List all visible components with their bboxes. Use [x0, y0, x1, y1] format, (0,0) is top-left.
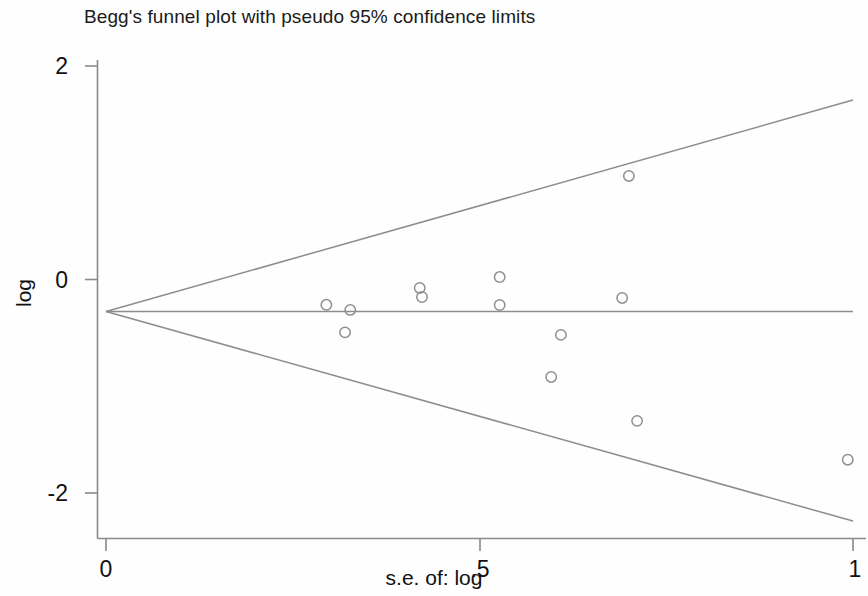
study-point — [546, 372, 556, 382]
study-point — [624, 171, 634, 181]
study-points-group — [321, 171, 853, 465]
funnel-plot-figure: Begg's funnel plot with pseudo 95% confi… — [0, 0, 868, 596]
plot-canvas — [0, 0, 868, 596]
y-axis-title: log — [12, 253, 36, 333]
axis-lines — [98, 60, 867, 539]
study-point — [345, 305, 355, 315]
study-point — [632, 416, 642, 426]
x-axis-title: s.e. of: log — [0, 566, 868, 590]
funnel-upper-limit-line — [106, 100, 853, 312]
funnel-lower-limit-line — [106, 312, 853, 522]
funnel-confidence-lines — [106, 100, 853, 521]
study-point — [843, 454, 853, 464]
study-point — [321, 300, 331, 310]
study-point — [494, 272, 504, 282]
y-axis-tick-label-2: 2 — [22, 53, 68, 80]
study-point — [556, 330, 566, 340]
y-axis-tick-label-neg2: -2 — [14, 480, 68, 507]
study-point — [494, 300, 504, 310]
study-point — [340, 327, 350, 337]
study-point — [617, 293, 627, 303]
axis-ticks — [85, 66, 853, 551]
